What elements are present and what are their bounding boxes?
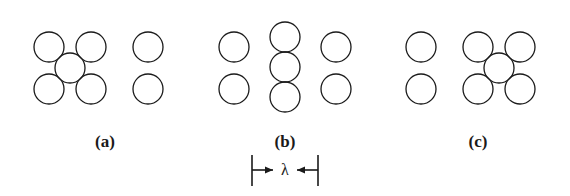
panel-label-c: (c): [469, 133, 488, 150]
panel-label-b: (b): [275, 133, 296, 150]
figure-root: (a) (b) (c) λ: [0, 0, 570, 196]
panel-label-a: (a): [95, 133, 115, 150]
lambda-symbol-label: λ: [281, 162, 289, 178]
